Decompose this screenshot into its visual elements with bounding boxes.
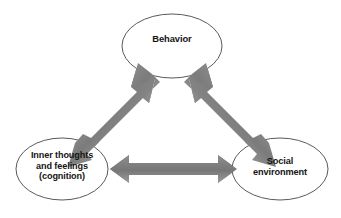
node-label-social: Social environment [232, 156, 328, 178]
node-label-behavior: Behavior [122, 33, 222, 44]
diagram-canvas: Behavior Inner thoughts and feelings (co… [0, 0, 341, 218]
connector-cognition-social [110, 155, 237, 183]
node-label-cognition: Inner thoughts and feelings (cognition) [16, 150, 108, 182]
